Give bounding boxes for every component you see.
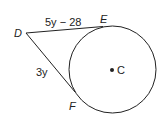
label-d: D (14, 27, 22, 39)
label-df-length: 3y (36, 66, 48, 78)
segment-df (26, 33, 75, 92)
label-de-length: 5y − 28 (45, 16, 81, 28)
label-f: F (69, 100, 77, 112)
tangent-diagram: D E F C 5y − 28 3y (0, 0, 166, 118)
label-c: C (117, 64, 125, 76)
label-e: E (100, 13, 108, 25)
center-point-c (110, 68, 114, 72)
